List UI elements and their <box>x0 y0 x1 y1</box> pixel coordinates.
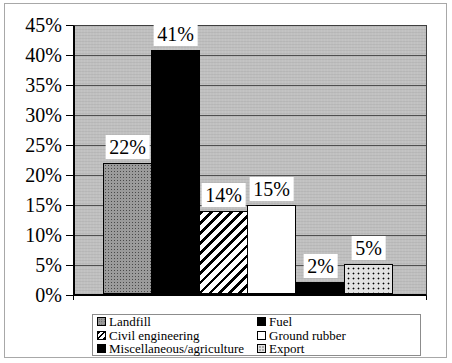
legend-swatch-solid-white <box>257 331 266 340</box>
legend-swatch-diagonal-hatch <box>97 331 106 340</box>
legend-label: Ground rubber <box>269 329 346 342</box>
legend-label: Fuel <box>269 315 292 328</box>
legend: LandfillFuelCivil engineeringGround rubb… <box>92 314 421 356</box>
legend-item: Fuel <box>257 315 420 328</box>
y-axis-tick-mark <box>66 115 73 116</box>
y-axis-tick-mark <box>66 25 73 26</box>
y-axis-tick-label: 30% <box>0 104 62 126</box>
bar-value-label: 22% <box>105 135 150 159</box>
y-axis-tick-mark <box>66 235 73 236</box>
legend-item: Miscellaneous/agriculture <box>97 342 257 355</box>
y-axis-tick-label: 0% <box>0 284 62 306</box>
bar-value-label: 14% <box>201 183 246 207</box>
legend-label: Miscellaneous/agriculture <box>109 342 244 355</box>
legend-item: Export <box>257 342 420 355</box>
y-axis-tick-mark <box>66 265 73 266</box>
bar-value-label: 41% <box>153 22 198 46</box>
value-labels-layer: 22%41%14%15%2%5% <box>75 26 426 294</box>
y-axis-tick-mark <box>66 295 73 296</box>
legend-label: Civil engineering <box>109 329 200 342</box>
y-axis-tick-mark <box>66 55 73 56</box>
y-axis-tick-mark <box>66 175 73 176</box>
bar-value-label: 2% <box>303 254 338 278</box>
legend-label: Export <box>269 342 304 355</box>
bar-value-label: 15% <box>249 177 294 201</box>
y-axis-tick-label: 5% <box>0 254 62 276</box>
y-axis-tick-label: 45% <box>0 14 62 36</box>
y-axis-tick-label: 10% <box>0 224 62 246</box>
y-axis-tick-label: 15% <box>0 194 62 216</box>
legend-item: Ground rubber <box>257 329 420 342</box>
legend-item: Landfill <box>97 315 257 328</box>
legend-swatch-solid-black <box>257 317 266 326</box>
y-axis-tick-label: 20% <box>0 164 62 186</box>
legend-swatch-gray-dots <box>97 317 106 326</box>
y-axis-tick-label: 25% <box>0 134 62 156</box>
y-axis-tick-mark <box>66 145 73 146</box>
bar-value-label: 5% <box>351 236 386 260</box>
legend-label: Landfill <box>109 315 151 328</box>
y-axis-tick-mark <box>66 85 73 86</box>
legend-item: Civil engineering <box>97 329 257 342</box>
legend-swatch-dots <box>257 344 266 353</box>
y-axis-tick-label: 35% <box>0 74 62 96</box>
legend-swatch-solid-black <box>97 344 106 353</box>
chart: 45%40%35%30%25%20%15%10%5%0% 22%41%14%15… <box>0 0 452 363</box>
plot-area: 22%41%14%15%2%5% <box>73 25 427 296</box>
x-axis-tick-mark <box>73 296 74 300</box>
y-axis-tick-mark <box>66 205 73 206</box>
x-axis-tick-mark <box>426 296 427 300</box>
y-axis-tick-label: 40% <box>0 44 62 66</box>
